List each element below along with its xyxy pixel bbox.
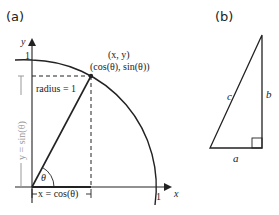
cos-measure: x = cos(θ)	[32, 188, 91, 200]
sin-measure-label: y = sin(θ)	[16, 121, 28, 160]
point-on-circle	[89, 74, 93, 78]
angle-label: θ	[41, 172, 46, 183]
right-triangle	[210, 35, 262, 148]
sin-measure: y = sin(θ)	[16, 76, 28, 187]
panel-b: (b) c b a	[210, 9, 272, 164]
point-label-trig: (cos(θ), sin(θ))	[90, 61, 150, 73]
radius-label: radius = 1	[36, 83, 76, 94]
x-axis-label: x	[173, 188, 179, 199]
cos-measure-label: x = cos(θ)	[38, 188, 78, 200]
panel-a-label: (a)	[6, 9, 24, 24]
point-label-xy-text: (x, y)	[108, 49, 130, 61]
vertical-side-label: b	[266, 88, 272, 100]
y-axis-label: y	[20, 36, 26, 47]
point-label-xy: (x, y)	[108, 49, 130, 61]
unit-circle-arc	[15, 60, 156, 205]
hypotenuse-label: c	[227, 90, 232, 102]
panel-b-label: (b)	[215, 9, 233, 24]
right-angle-marker	[252, 138, 262, 148]
horizontal-side-label: a	[233, 152, 239, 164]
figure: (a) y 1 x 1 θ (x, y) (cos(θ), sin(θ)) ra…	[0, 0, 279, 215]
panel-a: (a) y 1 x 1 θ (x, y) (cos(θ), sin(θ)) ra…	[6, 9, 179, 205]
